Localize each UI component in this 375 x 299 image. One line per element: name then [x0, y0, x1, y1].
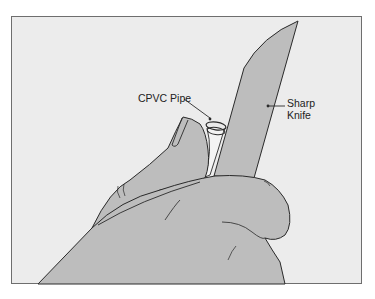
label-line-2: Knife: [287, 109, 315, 121]
label-line-1: Sharp: [287, 97, 315, 109]
label-cpvc-pipe: CPVC Pipe: [138, 92, 191, 104]
illustration: [0, 0, 375, 299]
label-sharp-knife: Sharp Knife: [287, 97, 315, 121]
hand: [38, 176, 290, 285]
knife-blade: [214, 21, 298, 178]
